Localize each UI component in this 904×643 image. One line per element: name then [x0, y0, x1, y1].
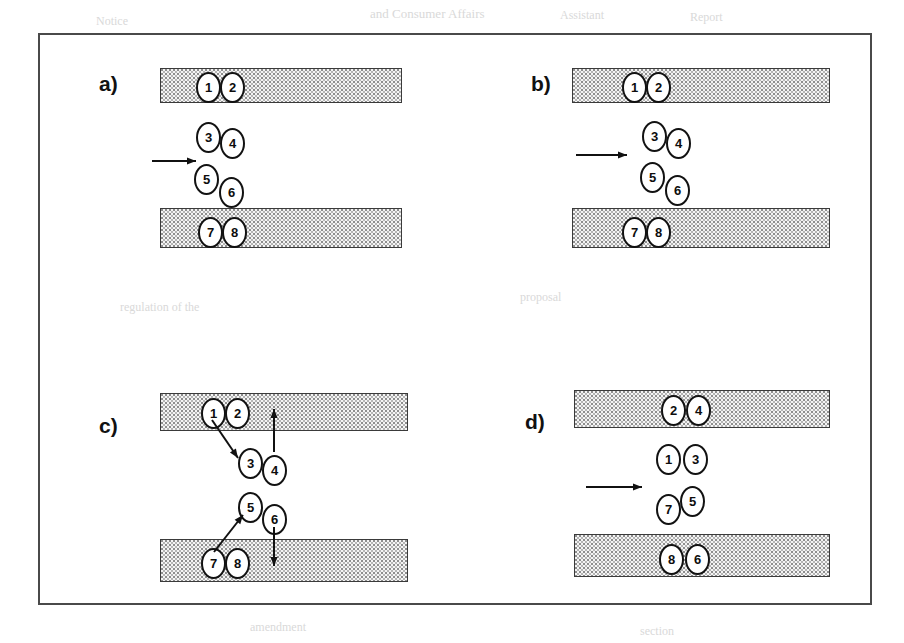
panel-d: d)24137586 [0, 0, 904, 643]
figure-stage: and Consumer AffairsAssistantNoticeRepor… [0, 0, 904, 643]
arrow-layer-d [0, 0, 904, 643]
shear-arrow [586, 483, 642, 490]
